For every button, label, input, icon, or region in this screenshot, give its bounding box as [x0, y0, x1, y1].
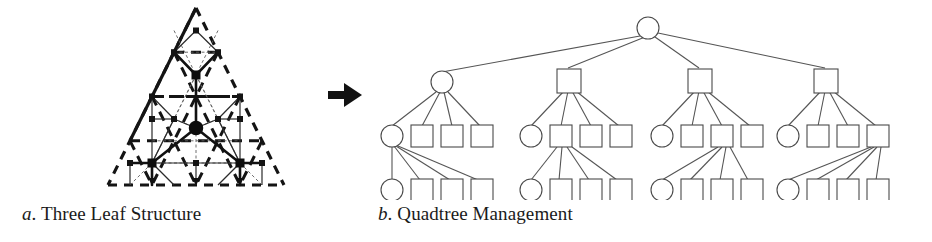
quadtree-node-square [411, 179, 433, 200]
triangle-node [171, 116, 177, 122]
triangle-node [237, 94, 243, 100]
quadtree-node-square [837, 125, 859, 147]
hub-node [190, 122, 203, 135]
caption-title-a: Three Leaf Structure [41, 203, 201, 224]
triangle-node [149, 116, 155, 122]
quadtree-root-node-circle [637, 17, 659, 39]
triangle-node [215, 49, 221, 55]
quadtree-node-circle [777, 125, 799, 147]
caption-title-b: Quadtree Management [397, 203, 572, 224]
quadtree-node-square [557, 69, 581, 93]
quadtree-group-4 [777, 69, 889, 200]
quadtree-node-circle [381, 179, 403, 200]
quadtree-node-square [441, 179, 463, 200]
quadtree-node-square [580, 179, 602, 200]
quadtree-node-circle [520, 125, 542, 147]
quadtree-edges-g2 [531, 91, 619, 180]
triangle-node [259, 160, 265, 166]
quadtree-node-square [411, 125, 433, 147]
figure-container: a. Three Leaf Structure b. Quadtree Mana… [0, 0, 932, 242]
quadtree-node-square [471, 179, 493, 200]
quadtree-node-square [610, 125, 632, 147]
triangle-node [193, 160, 199, 166]
quadtree-node-circle [651, 125, 673, 147]
quadtree-node-square [867, 179, 889, 200]
quadtree-node-square [688, 69, 712, 93]
caption-panel-a: a. Three Leaf Structure [22, 203, 201, 225]
quadtree-node-square [807, 179, 829, 200]
triangle-node [193, 28, 199, 34]
caption-panel-b: b. Quadtree Management [378, 203, 573, 225]
leaf-node-top [192, 71, 201, 80]
quadtree-node-square [837, 179, 859, 200]
quadtree-node-square [681, 125, 703, 147]
caption-separator-a: . [32, 203, 41, 224]
caption-label-b: b [378, 203, 388, 224]
triangle-node [127, 160, 133, 166]
quadtree-node-square [711, 179, 733, 200]
quadtree-group-3 [651, 69, 763, 200]
quadtree-node-square [741, 179, 763, 200]
quadtree-node-circle [651, 179, 673, 200]
quadtree-edges-level1 [442, 33, 825, 72]
quadtree-node-square [814, 69, 838, 93]
quadtree-node-square [867, 125, 889, 147]
caption-label-a: a [22, 203, 32, 224]
leaf-node-right [236, 159, 245, 168]
quadtree-node-square [580, 125, 602, 147]
quadtree-group-2 [520, 69, 632, 200]
quadtree-node-circle [431, 71, 453, 93]
quadtree-group-1 [381, 71, 493, 200]
triangle-node [237, 116, 243, 122]
quadtree-svg [370, 0, 932, 200]
quadtree-edges-g3 [662, 91, 750, 180]
quadtree-edges-g1 [392, 92, 480, 180]
quadtree-node-square [550, 125, 572, 147]
quadtree-node-circle [777, 179, 799, 200]
quadtree-node-square [471, 125, 493, 147]
quadtree-node-circle [520, 179, 542, 200]
quadtree-node-square [550, 179, 572, 200]
triangle-node [215, 116, 221, 122]
leaf-node-left [148, 159, 157, 168]
arrow-right-icon [310, 70, 370, 120]
triangle-node [171, 49, 177, 55]
quadtree-node-square [610, 179, 632, 200]
panel-three-leaf-structure [0, 0, 300, 200]
three-leaf-structure-svg [0, 0, 300, 200]
triangle-node [149, 94, 155, 100]
panel-quadtree-management [370, 0, 932, 200]
caption-separator-b: . [388, 203, 398, 224]
quadtree-node-circle [381, 125, 403, 147]
quadtree-node-square [441, 125, 463, 147]
transform-arrow-container [310, 70, 370, 120]
quadtree-node-square [711, 125, 733, 147]
quadtree-node-square [681, 179, 703, 200]
quadtree-node-square [741, 125, 763, 147]
quadtree-node-square [807, 125, 829, 147]
